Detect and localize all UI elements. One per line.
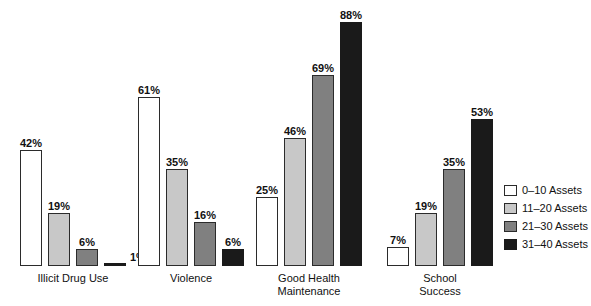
bar-violence-11-20-assets[interactable]: 35% [166,169,188,266]
bar-value-label: 19% [48,200,70,212]
group-label-line: Good Health [278,272,340,284]
bar-school-success-31-40-assets[interactable]: 53% [471,119,493,266]
group-label-line: Success [419,285,461,297]
group-label-school-success: School Success [419,272,461,298]
bar-value-label: 88% [340,9,362,21]
bar-illicit-drug-use-21-30-assets[interactable]: 6% [76,249,98,266]
legend-item-21-30-assets[interactable]: 21–30 Assets [504,218,590,234]
group-label-violence: Violence [170,272,212,285]
bar-group-school-success: 7% 19% 35% 53% School Success [383,0,488,306]
bar-value-label: 35% [443,156,465,168]
legend-swatch-icon [504,203,517,214]
bar-illicit-drug-use-31-40-assets[interactable]: 1% [104,263,126,266]
bar-violence-21-30-assets[interactable]: 16% [194,222,216,266]
group-label-illicit-drug-use: Illicit Drug Use [38,272,109,285]
bar-value-label: 7% [390,234,406,246]
legend-swatch-icon [504,185,517,196]
legend-item-label: 0–10 Assets [522,184,582,196]
group-label-good-health-maintenance: Good Health Maintenance [278,272,341,298]
bar-school-success-21-30-assets[interactable]: 35% [443,169,465,266]
bar-group-illicit-drug-use: 42% 19% 6% 1% Illicit Drug Use [16,0,121,306]
legend-item-label: 11–20 Assets [522,202,587,214]
legend-swatch-icon [504,221,517,232]
group-label-line: Maintenance [278,285,341,297]
bar-value-label: 6% [79,236,95,248]
bar-value-label: 16% [194,209,216,221]
bar-value-label: 46% [284,125,306,137]
plot-area: 42% 19% 6% 1% Illicit Drug Use 61% 35% [0,0,500,306]
legend-item-31-40-assets[interactable]: 31–40 Assets [504,236,590,252]
bar-good-health-maintenance-11-20-assets[interactable]: 46% [284,138,306,266]
bar-illicit-drug-use-0-10-assets[interactable]: 42% [20,150,42,266]
bar-value-label: 19% [415,200,437,212]
bar-value-label: 61% [138,84,160,96]
bar-good-health-maintenance-31-40-assets[interactable]: 88% [340,22,362,266]
bar-school-success-0-10-assets[interactable]: 7% [387,247,409,266]
group-label-line: Illicit Drug Use [38,272,109,284]
legend-item-label: 31–40 Assets [522,238,588,250]
bar-group-good-health-maintenance: 25% 46% 69% 88% Good Health Maintenance [252,0,357,306]
bar-value-label: 53% [471,106,493,118]
bar-value-label: 69% [312,62,334,74]
bar-value-label: 25% [256,184,278,196]
bar-violence-0-10-assets[interactable]: 61% [138,97,160,266]
bar-value-label: 42% [20,137,42,149]
bar-group-violence: 61% 35% 16% 6% Violence [134,0,239,306]
legend-swatch-icon [504,239,517,250]
grouped-bar-chart: 42% 19% 6% 1% Illicit Drug Use 61% 35% [0,0,591,306]
bar-good-health-maintenance-21-30-assets[interactable]: 69% [312,75,334,266]
bar-good-health-maintenance-0-10-assets[interactable]: 25% [256,197,278,266]
bar-value-label: 6% [225,236,241,248]
bar-illicit-drug-use-11-20-assets[interactable]: 19% [48,213,70,266]
chart-legend: 0–10 Assets 11–20 Assets 21–30 Assets 31… [504,182,590,254]
legend-item-11-20-assets[interactable]: 11–20 Assets [504,200,590,216]
legend-item-0-10-assets[interactable]: 0–10 Assets [504,182,590,198]
group-label-line: School [423,272,457,284]
group-label-line: Violence [170,272,212,284]
bar-school-success-11-20-assets[interactable]: 19% [415,213,437,266]
bar-violence-31-40-assets[interactable]: 6% [222,249,244,266]
legend-item-label: 21–30 Assets [522,220,588,232]
bar-value-label: 35% [166,156,188,168]
